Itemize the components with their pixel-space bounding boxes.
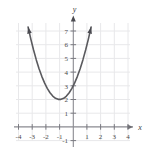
x-tick-label: -2 [43, 133, 49, 141]
x-tick-label: 4 [126, 133, 130, 141]
x-tick-label: 2 [99, 133, 103, 141]
x-axis-label: x [137, 123, 142, 132]
y-tick-label: 7 [65, 28, 69, 36]
y-axis-tick-labels: -1 1 2 3 4 5 6 7 [62, 28, 68, 146]
graph-figure: -4 -3 -2 -1 1 2 3 4 -1 1 2 3 4 5 6 7 x y [0, 0, 153, 152]
y-tick-label: 6 [65, 41, 69, 49]
x-tick-label: -4 [16, 133, 22, 141]
y-axis-arrowhead [71, 16, 76, 22]
y-tick-label: -1 [62, 137, 68, 145]
y-axis-label: y [72, 5, 77, 14]
y-tick-label: 4 [65, 69, 69, 77]
y-tick-label: 3 [65, 83, 69, 91]
x-tick-label: 1 [85, 133, 89, 141]
y-tick-label: 5 [65, 55, 69, 63]
x-tick-label: -3 [29, 133, 35, 141]
x-tick-label: 3 [113, 133, 117, 141]
y-tick-label: 1 [65, 110, 69, 118]
coordinate-plane-plot: -4 -3 -2 -1 1 2 3 4 -1 1 2 3 4 5 6 7 x y [0, 0, 153, 152]
